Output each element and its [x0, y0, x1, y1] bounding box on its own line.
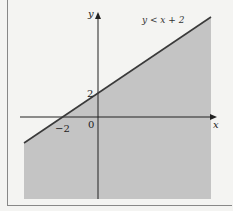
x-intercept-label: −2 — [55, 123, 70, 134]
inequality-label: y < x + 2 — [141, 15, 185, 25]
origin-label: 0 — [88, 119, 94, 130]
shaded-region — [24, 17, 211, 199]
y-axis-arrow-icon — [95, 12, 101, 19]
y-axis-label: y — [87, 8, 94, 19]
x-axis-label: x — [213, 119, 219, 130]
y-intercept-label: 2 — [87, 88, 93, 99]
inequality-graph: y < x + 2 y x 2 −2 0 — [0, 0, 233, 211]
